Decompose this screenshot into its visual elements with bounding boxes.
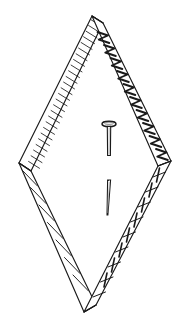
figure-canvas: · · · ·	[0, 0, 188, 332]
headed-nail-head-highlight	[105, 122, 114, 124]
diamond-frame-illustration	[0, 0, 188, 332]
